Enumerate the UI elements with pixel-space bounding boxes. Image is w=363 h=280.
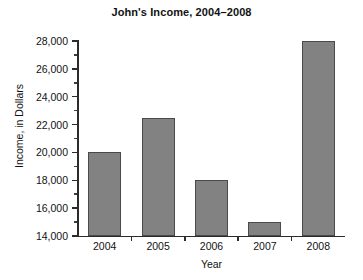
- y-tick-label: 28,000: [8, 35, 68, 47]
- y-tick-label: 22,000: [8, 119, 68, 131]
- bar: [195, 180, 228, 236]
- y-tick-label: 16,000: [8, 202, 68, 214]
- y-tick-label: 20,000: [8, 146, 68, 158]
- x-tick-label: 2007: [238, 240, 292, 252]
- y-tick-label: 18,000: [8, 174, 68, 186]
- plot-area: [78, 41, 345, 236]
- x-tick-label: 2008: [291, 240, 345, 252]
- y-tick-label: 24,000: [8, 91, 68, 103]
- bar-chart: John's Income, 2004–2008 Income, in Doll…: [0, 0, 363, 280]
- bar: [302, 41, 335, 236]
- x-tick-label: 2004: [78, 240, 132, 252]
- x-tick-label: 2006: [185, 240, 239, 252]
- y-tick-label: 14,000: [8, 230, 68, 242]
- bar: [88, 152, 121, 236]
- chart-title: John's Income, 2004–2008: [0, 6, 363, 18]
- x-axis-title: Year: [78, 258, 345, 270]
- bar: [142, 118, 175, 236]
- bar: [248, 222, 281, 236]
- x-tick-label: 2005: [131, 240, 185, 252]
- y-tick-label: 26,000: [8, 63, 68, 75]
